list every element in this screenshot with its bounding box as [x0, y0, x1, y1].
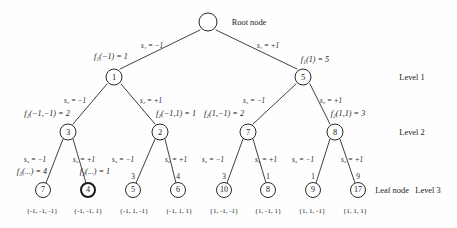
leaf-above-value-4: 4 [176, 172, 180, 181]
function-label-f3-2: f₃(...) = 1 [80, 167, 110, 176]
node-value: 1 [112, 73, 116, 82]
node-value: 7 [41, 186, 45, 194]
node-value: 3 [66, 128, 70, 137]
leaf-above-value-6: 1 [266, 172, 270, 181]
node-leaf-7[interactable]: 9 [305, 182, 321, 198]
decision-tree-figure: Root node 1 5 3 2 7 8 7 4 5 6 10 8 9 17 … [0, 0, 457, 228]
node-value: 17 [354, 186, 362, 194]
leaf-tuple-7: {1, 1, -1} [299, 207, 326, 215]
leaf-tuple-5: {1, -1, -1} [210, 207, 239, 215]
node-level2-2[interactable]: 2 [152, 124, 169, 141]
edge-label-s3-4: s₃ = +1 [165, 156, 187, 164]
level-label-2: Level 2 [399, 128, 424, 137]
edge-3-to-7 [46, 139, 63, 183]
leaf-tuple-8: {1, 1, 1} [343, 207, 367, 215]
node-leaf-4[interactable]: 6 [170, 182, 186, 198]
level-label-3: Level 3 [415, 186, 440, 195]
edge-label-s1-pos: s₁ = +1 [257, 42, 279, 50]
node-leaf-2-optimal[interactable]: 4 [80, 182, 96, 198]
node-leaf-1[interactable]: 7 [35, 182, 51, 198]
node-value: 5 [131, 186, 135, 194]
node-level1-5[interactable]: 5 [295, 69, 312, 86]
node-level2-8[interactable]: 8 [327, 124, 344, 141]
node-root[interactable] [199, 13, 218, 32]
root-node-caption: Root node [232, 18, 267, 27]
node-value: 5 [301, 73, 305, 82]
leaf-tuple-6: {1, -1, 1} [255, 207, 282, 215]
node-value: 8 [333, 128, 337, 137]
edge-label-s3-6: s₃ = +1 [255, 156, 277, 164]
edge-label-s3-1: s₃ = −1 [24, 156, 46, 164]
node-value: 4 [86, 186, 90, 194]
edge-label-s1-neg: s₁ = −1 [141, 42, 163, 50]
function-label-f3-1: f₃(...) = 4 [17, 167, 47, 176]
edge-label-s3-2: s₃ = +1 [73, 156, 95, 164]
edge-2-to-5 [136, 139, 155, 183]
leaf-above-value-5: 3 [222, 172, 226, 181]
edge-label-s3-7: s₃ = −1 [292, 156, 314, 164]
edge-label-s3-3: s₃ = −1 [112, 156, 134, 164]
function-label-f1-pos: f₁(1) = 5 [301, 55, 329, 64]
leaf-tuple-1: {-1, -1, -1} [26, 207, 57, 215]
node-leaf-3[interactable]: 5 [125, 182, 141, 198]
node-leaf-6[interactable]: 8 [260, 182, 276, 198]
function-label-f2-pn: f₂(1,−1) = 2 [204, 109, 244, 118]
node-level1-1[interactable]: 1 [106, 69, 123, 86]
edge-label-s2-neg-right: s₂ = −1 [243, 97, 265, 105]
node-value: 10 [220, 186, 228, 194]
edge-7-to-10 [227, 139, 243, 183]
leaf-tuple-2: {-1, -1, 1} [74, 207, 103, 215]
node-level2-3[interactable]: 3 [60, 124, 77, 141]
node-level2-7[interactable]: 7 [240, 124, 257, 141]
leaf-tuple-4: {-1, 1, 1} [166, 207, 193, 215]
node-leaf-5[interactable]: 10 [216, 182, 232, 198]
node-value: 9 [311, 186, 315, 194]
edge-label-s3-8: s₃ = +1 [341, 156, 363, 164]
leaf-above-value-8: 9 [356, 172, 360, 181]
node-value: 8 [266, 186, 270, 194]
node-leaf-8[interactable]: 17 [350, 182, 366, 198]
edge-label-s2-pos-left: s₂ = +1 [140, 97, 162, 105]
node-value: 6 [176, 186, 180, 194]
leaf-tuple-3: {-1, 1, -1} [120, 207, 149, 215]
leaf-above-value-7: 1 [311, 172, 315, 181]
edge-label-s2-neg-left: s₂ = −1 [64, 97, 86, 105]
leaf-node-caption: Leaf node [375, 186, 409, 195]
node-value: 7 [246, 128, 250, 137]
level-label-1: Level 1 [399, 73, 424, 82]
node-value: 2 [158, 128, 162, 137]
function-label-f2-np: f₂(−1,1) = 1 [156, 109, 196, 118]
leaf-above-value-3: 3 [131, 172, 135, 181]
edge-8-to-9 [316, 139, 330, 183]
edge-label-s2-pos-right: s₂ = +1 [320, 97, 342, 105]
function-label-f2-pp: f₂(1,1) = 3 [331, 109, 366, 118]
edge-label-s3-5: s₃ = −1 [202, 156, 224, 164]
function-label-f1-neg: f₁(−1) = 1 [94, 52, 128, 61]
function-label-f2-nn: f₂(−1,−1) = 2 [24, 109, 70, 118]
